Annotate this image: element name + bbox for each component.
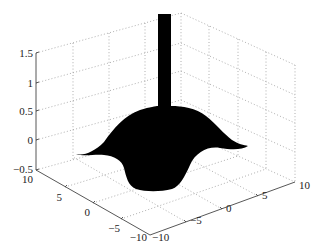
surface-plot: 1.5 1 0.5 0 −0.5 10 5 0 −5 −10 −10 −5 0 … [0,0,321,244]
z-tick-label: 0.5 [19,105,33,117]
z-tick-labels: 1.5 1 0.5 0 −0.5 [13,47,33,175]
z-tick-label: 1 [28,77,34,89]
y-tick-label: 0 [85,206,91,218]
z-tick-label: 1.5 [19,47,33,59]
z-tick-label: 0 [28,134,34,146]
x-tick-label: −5 [190,214,202,226]
surface [76,14,248,191]
y-tick-labels: 10 5 0 −5 −10 [22,173,147,243]
x-axis-line [150,182,295,235]
y-tick-label: −10 [130,231,148,243]
x-tick-label: 5 [262,189,268,201]
y-tick-label: 5 [57,191,63,203]
x-tick-label: 0 [226,202,232,214]
x-tick-labels: −10 −5 0 5 10 [152,179,311,243]
y-tick-label: 10 [22,173,34,185]
y-tick-label: −5 [108,222,120,234]
x-tick-label: 10 [299,179,311,191]
x-tick-label: −10 [152,231,170,243]
